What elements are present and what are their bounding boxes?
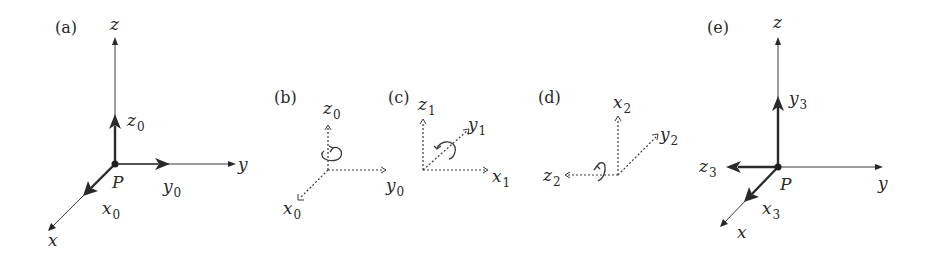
y-axis-label: y [237, 154, 248, 174]
origin-point [775, 164, 782, 171]
origin-point [112, 161, 119, 168]
panel-a: (a) z y x z0 y0 x0 P [48, 14, 248, 250]
z-axis-label: z [772, 12, 783, 32]
x2-label: x2 [613, 92, 631, 116]
x3-vector [752, 167, 778, 194]
panel-b: (b) z0 y0 x0 [274, 88, 404, 222]
panel-label-e: (e) [707, 18, 729, 37]
z1-label: z1 [417, 94, 436, 118]
y-axis-label: y [877, 173, 888, 193]
panel-label-a: (a) [55, 18, 77, 37]
rotation-arc-icon [437, 142, 455, 159]
y0-label: y0 [385, 175, 404, 199]
y2-dotted-axis [618, 136, 657, 175]
z-axis-arrowhead-icon [775, 37, 781, 45]
x-axis-label: x [737, 222, 747, 242]
panel-d: (d) x2 y2 z2 [538, 88, 678, 189]
rotation-arrowhead-icon [329, 146, 333, 152]
z-axis-label: z [109, 14, 120, 34]
y2-label: y2 [659, 124, 678, 148]
z1-arrowhead-icon [420, 119, 426, 124]
z-axis-arrowhead-icon [112, 37, 118, 45]
y-axis-arrowhead-icon [875, 164, 883, 170]
panel-label-b: (b) [274, 88, 297, 107]
y-axis-arrowhead-icon [228, 161, 236, 167]
x0-dotted-axis [300, 170, 328, 198]
x1-label: x1 [492, 166, 510, 190]
panel-e: (e) z y x y3 z3 x3 P [698, 12, 888, 242]
panel-label-d: (d) [538, 88, 561, 107]
x0-label: x0 [283, 198, 301, 222]
z2-label: z2 [542, 165, 561, 189]
x-axis-label: x [48, 230, 58, 250]
rotation-arrowhead-icon [594, 166, 600, 170]
origin-label-p: P [111, 172, 124, 192]
coordinate-frames-figure: (a) z y x z0 y0 x0 P (b) z0 y0 [0, 0, 939, 254]
z0-label: z0 [126, 110, 145, 134]
x0-arrowhead-icon [298, 194, 304, 200]
x0-label: x0 [102, 198, 120, 222]
x3-label: x3 [762, 198, 780, 222]
y1-dotted-axis [423, 130, 468, 170]
y2-arrowhead-icon [652, 134, 658, 140]
z3-label: z3 [698, 156, 717, 180]
rotation-arc-icon [597, 163, 605, 181]
y3-label: y3 [788, 88, 807, 112]
z0-label: z0 [322, 98, 341, 122]
origin-label-p: P [779, 174, 792, 194]
x2-arrowhead-icon [615, 116, 621, 121]
y1-label: y1 [467, 114, 486, 138]
panel-label-c: (c) [388, 88, 409, 107]
y0-label: y0 [162, 176, 181, 200]
panel-c: (c) z1 x1 y1 [388, 88, 510, 190]
